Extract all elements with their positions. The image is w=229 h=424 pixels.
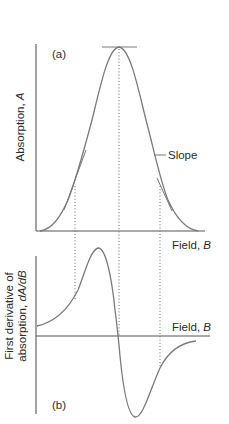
panel-a-y-axis-label: Absorption, A <box>14 92 26 161</box>
guide-lines <box>75 49 160 368</box>
panel-b-y-axis-label-line1: First derivative of <box>3 271 15 359</box>
slope-annotation: Slope <box>168 149 197 161</box>
panel-b-label: (b) <box>52 399 66 411</box>
panel-b: (b) Field, B First derivative of absorpt… <box>3 248 211 417</box>
left-slope-tangent <box>64 150 86 210</box>
panel-a-x-axis-label: Field, B <box>172 239 211 251</box>
panel-a-label: (a) <box>52 48 66 60</box>
panel-b-y-axis-label-line2: absorption, dA/dB <box>16 270 28 362</box>
epr-absorption-derivative-diagram: (a) Slope Field, B Absorption, A (b) Fie… <box>0 0 229 424</box>
panel-a: (a) Slope Field, B Absorption, A <box>14 44 211 251</box>
panel-b-x-axis-label: Field, B <box>172 321 211 333</box>
right-slope-tangent <box>157 178 172 211</box>
